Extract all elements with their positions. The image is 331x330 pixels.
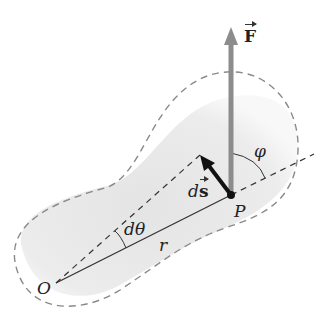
displacement-label: ds bbox=[188, 183, 208, 200]
point-p bbox=[227, 191, 235, 199]
force-arrowhead bbox=[224, 27, 238, 45]
origin-label: O bbox=[37, 280, 51, 297]
dtheta-label: dθ bbox=[124, 221, 145, 238]
rigid-body-diagram: F ds P O dθ r φ bbox=[0, 0, 331, 330]
force-label: F bbox=[244, 28, 256, 45]
point-p-label: P bbox=[234, 203, 245, 220]
body-shading bbox=[21, 95, 298, 296]
radius-label: r bbox=[159, 237, 167, 254]
phi-label: φ bbox=[254, 143, 266, 160]
